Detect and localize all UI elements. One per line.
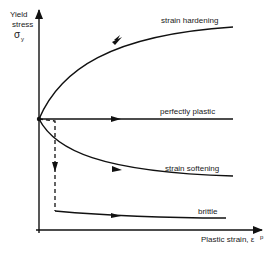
- dashed-drop-line: [39, 119, 55, 211]
- y-axis-symbol: σ: [14, 29, 21, 40]
- arrow-icon: [112, 166, 122, 172]
- x-axis-label: Plastic strain, ε: [201, 235, 255, 244]
- arrow-icon: [111, 116, 121, 122]
- brittle-label: brittle: [198, 207, 218, 216]
- strain-hardening-curve: [39, 27, 233, 119]
- y-axis-label-line2: stress: [12, 20, 33, 29]
- arrow-icon: [52, 162, 58, 172]
- strain-softening-label: strain softening: [165, 164, 219, 173]
- perfectly-plastic-label: perfectly plastic: [160, 107, 215, 116]
- y-axis-subscript: y: [21, 36, 24, 42]
- x-axis-superscript: p: [260, 234, 264, 240]
- yield-stress-diagram: Yield stress σ y strain hardening perfec…: [0, 0, 276, 256]
- strain-hardening-label: strain hardening: [161, 16, 218, 25]
- y-axis-label-line1: Yield: [10, 10, 28, 19]
- origin-point: [37, 117, 41, 121]
